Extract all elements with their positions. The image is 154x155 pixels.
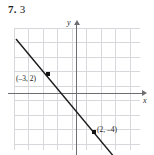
coordinate-plane: y x (–3, 2) (2, –4) (0, 18, 154, 155)
point-marker-b (92, 130, 96, 134)
exercise-answer: 3 (20, 3, 26, 15)
exercise-header: 7.3 (8, 2, 25, 16)
plotted-line (0, 18, 154, 155)
point-marker-a (46, 72, 50, 76)
figure-container: 7.3 y x (–3, 2) (2, –4) (0, 0, 154, 155)
point-label-a: (–3, 2) (16, 74, 36, 83)
exercise-number: 7. (8, 3, 17, 15)
point-label-b: (2, –4) (97, 125, 117, 134)
